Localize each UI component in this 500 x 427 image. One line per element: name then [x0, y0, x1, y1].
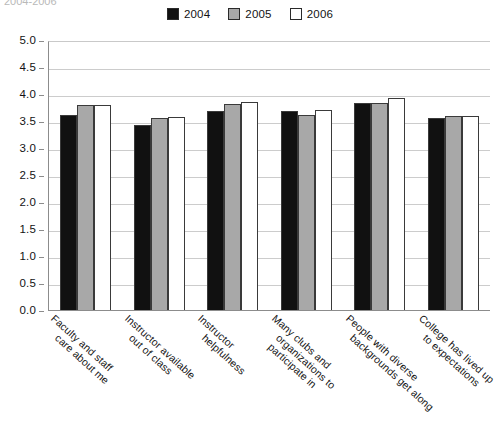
- bar-2006: [315, 110, 332, 310]
- bar-2006: [168, 117, 185, 310]
- y-axis-tick-label: 3.5: [19, 116, 36, 128]
- bar-2005: [445, 116, 462, 310]
- y-axis-tick-mark: [39, 122, 44, 123]
- bar-2005: [151, 118, 168, 310]
- legend-item-2006: 2006: [290, 8, 333, 20]
- top-caption-fragment: 2004-2006: [4, 0, 124, 7]
- y-axis-tick-mark: [39, 257, 44, 258]
- bar-group: [428, 42, 479, 310]
- y-axis-tick-label: 0.5: [19, 278, 36, 290]
- y-axis-tick-mark: [39, 311, 44, 312]
- bar-2006: [388, 98, 405, 310]
- legend-swatch-2004: [167, 8, 179, 20]
- bar-2004: [428, 118, 445, 310]
- bar-group: [207, 42, 258, 310]
- bar-group: [60, 42, 111, 310]
- legend-item-2004: 2004: [167, 8, 210, 20]
- y-axis-tick-label: 1.0: [19, 251, 36, 263]
- x-axis-label: Instructorhelpfulness: [188, 312, 256, 377]
- legend-label-2005: 2005: [245, 8, 271, 20]
- legend-swatch-2005: [228, 8, 240, 20]
- y-axis-tick-mark: [39, 203, 44, 204]
- y-axis-tick-label: 3.0: [19, 143, 36, 155]
- y-axis-tick-mark: [39, 41, 44, 42]
- bar-group: [354, 42, 405, 310]
- bar-2004: [207, 111, 224, 310]
- y-axis-tick-label: 4.5: [19, 62, 36, 74]
- bar-2005: [77, 105, 94, 310]
- x-axis-label: Instructor availableout of class: [114, 312, 197, 390]
- plot-area: [48, 41, 490, 311]
- bar-group: [134, 42, 185, 310]
- legend-swatch-2006: [290, 8, 302, 20]
- y-axis-tick-mark: [39, 176, 44, 177]
- x-axis-label: Faculty and staffcare about me: [41, 312, 120, 386]
- bar-2005: [298, 115, 315, 310]
- y-axis-tick-mark: [39, 284, 44, 285]
- chart-legend: 2004 2005 2006: [0, 8, 500, 20]
- legend-label-2006: 2006: [307, 8, 333, 20]
- y-axis-tick-label: 5.0: [19, 35, 36, 47]
- bar-2004: [354, 103, 371, 310]
- bar-2005: [371, 103, 388, 310]
- bar-2005: [224, 104, 241, 310]
- bar-2006: [241, 102, 258, 310]
- legend-label-2004: 2004: [184, 8, 210, 20]
- y-axis-tick-mark: [39, 230, 44, 231]
- bar-2006: [94, 105, 111, 310]
- y-axis: 5.04.54.03.53.02.52.01.51.00.50.0: [0, 41, 44, 311]
- bar-groups: [49, 42, 490, 310]
- y-axis-tick-mark: [39, 68, 44, 69]
- legend-item-2005: 2005: [228, 8, 271, 20]
- bar-2004: [281, 111, 298, 310]
- y-axis-tick-mark: [39, 149, 44, 150]
- y-axis-tick-label: 2.5: [19, 170, 36, 182]
- bar-group: [281, 42, 332, 310]
- bar-2004: [134, 125, 151, 310]
- bar-2004: [60, 115, 77, 310]
- y-axis-tick-label: 2.0: [19, 197, 36, 209]
- y-axis-tick-label: 4.0: [19, 89, 36, 101]
- bar-2006: [462, 116, 479, 310]
- x-axis-label: Many clubs andorganizations toparticipat…: [254, 312, 346, 400]
- y-axis-tick-mark: [39, 95, 44, 96]
- y-axis-tick-label: 0.0: [19, 305, 36, 317]
- x-axis-labels: Faculty and staffcare about meInstructor…: [48, 312, 490, 427]
- top-caption-text: 2004-2006: [4, 0, 124, 7]
- y-axis-tick-label: 1.5: [19, 224, 36, 236]
